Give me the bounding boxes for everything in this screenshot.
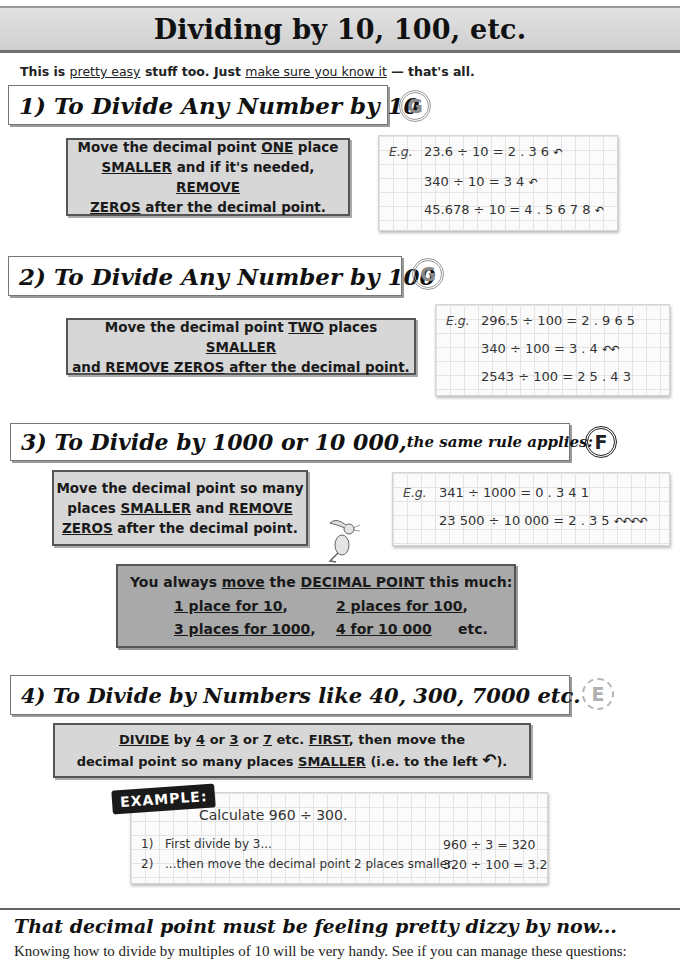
section-4-rule-box: DIVIDE by 4 or 3 or 7 etc. FIRST, then m… bbox=[53, 723, 531, 778]
footer-divider bbox=[0, 908, 680, 910]
footer-text: Knowing how to divide by multiples of 10… bbox=[14, 943, 627, 960]
arrow-icon: ↶↶↶↶ bbox=[614, 515, 647, 528]
grade-g-icon: G bbox=[412, 258, 444, 290]
grade-f-icon: F bbox=[585, 426, 617, 458]
example-line: 340 ÷ 100 = 3 . 4 ↶↶ bbox=[481, 341, 618, 356]
section-2-heading: 2) To Divide Any Number by 100 bbox=[8, 256, 402, 296]
arrow-icon: ↶ bbox=[528, 176, 536, 189]
section-2-example-card: E.g. 296.5 ÷ 100 = 2 . 9 6 5 340 ÷ 100 =… bbox=[435, 304, 670, 396]
arrow-icon: ↶ bbox=[595, 204, 603, 217]
section-1-heading: 1) To Divide Any Number by 10 bbox=[8, 85, 388, 125]
section-4-heading: 4) To Divide by Numbers like 40, 300, 70… bbox=[10, 675, 570, 715]
example-line: 23 500 ÷ 10 000 = 2 . 3 5 ↶↶↶↶ bbox=[439, 513, 647, 528]
example-line: 340 ÷ 10 = 3 4 ↶ bbox=[424, 174, 537, 189]
summary-box: You always move the DECIMAL POINT this m… bbox=[116, 564, 516, 648]
arrow-icon: ↶ bbox=[553, 146, 561, 159]
section-2-rule-box: Move the decimal point TWO places SMALLE… bbox=[66, 318, 416, 375]
example-prompt: Calculate 960 ÷ 300. bbox=[199, 807, 347, 823]
section-1-example-card: E.g. 23.6 ÷ 10 = 2 . 3 6 ↶ 340 ÷ 10 = 3 … bbox=[378, 135, 618, 231]
section-1-rule-box: Move the decimal point ONE place SMALLER… bbox=[66, 138, 350, 216]
section-3-heading: 3) To Divide by 1000 or 10 000, the same… bbox=[10, 423, 570, 461]
example-line: 341 ÷ 1000 = 0 . 3 4 1 bbox=[439, 485, 589, 500]
example-line: 23.6 ÷ 10 = 2 . 3 6 ↶ bbox=[424, 144, 562, 159]
example-line: 296.5 ÷ 100 = 2 . 9 6 5 bbox=[481, 313, 635, 328]
rabbit-illustration bbox=[322, 515, 362, 565]
grade-g-icon: G bbox=[399, 90, 431, 122]
eg-label: E.g. bbox=[403, 485, 427, 500]
left-arrow-icon: ↶ bbox=[482, 750, 496, 770]
example-line: 45.678 ÷ 10 = 4 . 5 6 7 8 ↶ bbox=[424, 202, 603, 217]
grade-e-icon: E bbox=[582, 678, 614, 710]
section-3-rule-box: Move the decimal point so many places SM… bbox=[52, 470, 308, 546]
section-3-example-card: E.g. 341 ÷ 1000 = 0 . 3 4 1 23 500 ÷ 10 … bbox=[392, 472, 670, 546]
arrow-icon: ↶↶ bbox=[602, 343, 618, 356]
page-title: Dividing by 10, 100, etc. bbox=[154, 14, 527, 45]
example-line: 2543 ÷ 100 = 2 5 . 4 3 bbox=[481, 369, 631, 384]
eg-label: E.g. bbox=[389, 144, 413, 159]
eg-label: E.g. bbox=[446, 313, 470, 328]
footer-title: That decimal point must be feeling prett… bbox=[14, 915, 617, 937]
page-title-banner: Dividing by 10, 100, etc. bbox=[0, 6, 680, 53]
intro-text: This is pretty easy stuff too. Just make… bbox=[20, 64, 475, 79]
